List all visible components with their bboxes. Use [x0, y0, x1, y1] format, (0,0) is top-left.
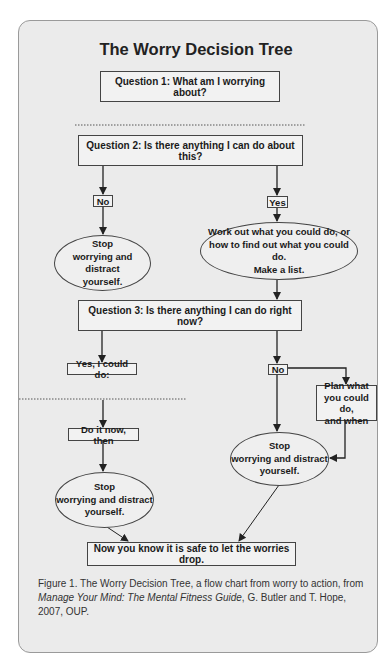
question-2-box: Question 2: Is there anything I can do a…	[78, 135, 303, 166]
final-text: Now you know it is safe to let the worri…	[88, 543, 295, 565]
q2-yes-label: Yes	[267, 196, 288, 208]
question-3-box: Question 3: Is there anything I can do r…	[78, 300, 302, 331]
stop-worrying-ellipse-2: Stop worrying and distract yourself.	[55, 472, 154, 528]
stop-worrying-ellipse-3: Stop worrying and distract yourself.	[230, 432, 329, 486]
do-it-now-box: Do it now, then	[68, 428, 139, 441]
question-3-text: Question 3: Is there anything I can do r…	[79, 305, 301, 327]
diagram-title: The Worry Decision Tree	[0, 40, 392, 59]
question-2-text: Question 2: Is there anything I can do a…	[79, 140, 302, 162]
final-box: Now you know it is safe to let the worri…	[87, 542, 296, 566]
q3-no-label: No	[268, 364, 288, 375]
q3-yes-label: Yes, I could do:	[67, 363, 137, 375]
question-1-box: Question 1: What am I worrying about?	[100, 71, 280, 102]
caption-prefix: Figure 1. The Worry Decision Tree, a flo…	[38, 578, 363, 589]
caption-book-title: Manage Your Mind: The Mental Fitness Gui…	[38, 592, 242, 603]
question-1-text: Question 1: What am I worrying about?	[101, 76, 279, 98]
figure-caption: Figure 1. The Worry Decision Tree, a flo…	[38, 577, 368, 619]
plan-box: Plan what you could do, and when	[316, 385, 377, 421]
stop-worrying-ellipse-1: Stop worrying and distract yourself.	[54, 235, 151, 291]
q2-no-label: No	[93, 195, 113, 207]
work-out-ellipse: Work out what you could do, or how to fi…	[200, 222, 358, 280]
